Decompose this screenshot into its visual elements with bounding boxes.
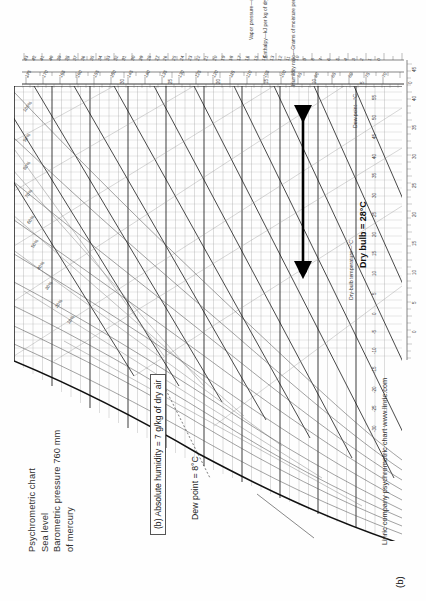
tick-label: 25 [372,212,377,217]
tick-label: -30 [372,425,377,432]
tick-label: 40 [372,153,377,158]
tick-label: 50 [372,114,377,119]
dry-bulb-axis-caption: Dry-bulb temperature—°C [348,240,354,300]
tick-label: 20 [372,231,377,236]
dew-point-axis-caption: Dew point—°C [352,94,358,128]
vapor-pressure-axis-caption: Vapor pressure—mm of mercury [248,0,254,40]
title-line-1: Psychrometric chart [26,430,39,552]
state-point-marker [299,266,307,274]
tick-label: 45 [372,134,377,139]
dew-point-annotation: Dew point = 8°C [190,456,200,520]
linric-credit-text: Linric company psychrometric chart www.l… [380,378,389,545]
tick-label: -20 [372,386,377,393]
title-line-3: Barometric pressure 760 mm [51,430,64,552]
tick-label: 5 [372,292,377,295]
tick-label: -10 [372,347,377,354]
vapor-pressure-scale [22,40,404,64]
title-line-2: Sea level [39,430,52,552]
tick-label: -5 [372,330,377,334]
tick-label: -25 [372,405,377,412]
tick-label: 55 [372,95,377,100]
tick-label: 10 [372,270,377,275]
dry-bulb-annotation: Dry bulb = 28°C [358,201,368,268]
figure-label: (b) [394,576,405,588]
figure-page: 1751701651601551501451401351301251201151… [0,0,426,601]
right-vertical-ruler [404,60,418,360]
absolute-humidity-annotation: (b) Absolute humidity = 7 g/kg of dry ai… [150,374,166,535]
tick-label: 15 [372,251,377,256]
humidity-ratio-axis-caption: Humidity ratio—Grams of moisture per kil… [290,0,296,86]
chart-title-block: Psychrometric chart Sea level Barometric… [26,430,76,552]
tick-label: 30 [372,192,377,197]
tick-label: 35 [372,173,377,178]
tick-label: 0 [372,312,377,315]
humidity-ratio-scale [22,68,404,90]
enthalpy-axis-caption: Enthalpy—kJ per kg of dry air [262,0,268,58]
tick-label: -15 [372,366,377,373]
title-line-4: of mercury [64,430,77,552]
